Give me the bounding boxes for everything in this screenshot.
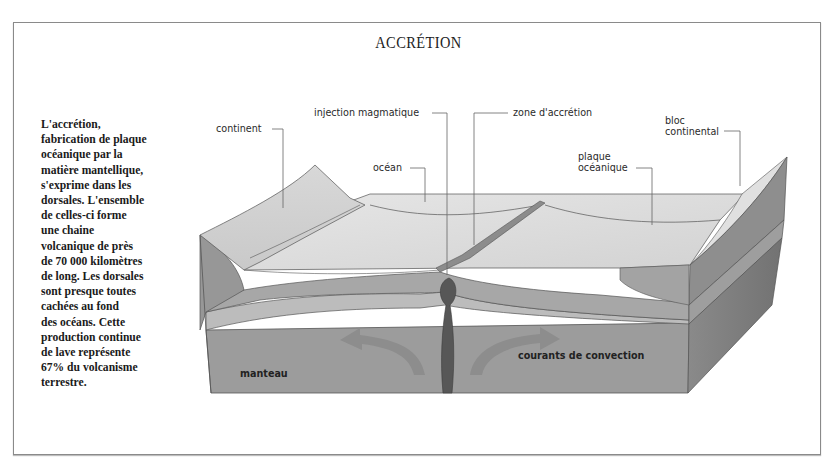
label-zone-accretion: zone d'accrétion	[513, 107, 592, 118]
label-manteau: manteau	[240, 368, 288, 379]
label-plaque-line2: océanique	[578, 162, 628, 173]
label-continent: continent	[216, 123, 261, 134]
label-bloc-continental: bloc continental	[665, 115, 719, 137]
leader-bloc	[724, 131, 740, 186]
label-plaque-oceanique: plaque océanique	[578, 151, 628, 173]
accretion-block-diagram	[0, 0, 837, 469]
label-ocean: océan	[373, 162, 402, 173]
label-bloc-line1: bloc	[665, 115, 719, 126]
label-injection-magmatique: injection magmatique	[314, 107, 419, 118]
label-courants-convection: courants de convection	[518, 350, 644, 361]
label-bloc-line2: continental	[665, 126, 719, 137]
label-plaque-line1: plaque	[578, 151, 628, 162]
